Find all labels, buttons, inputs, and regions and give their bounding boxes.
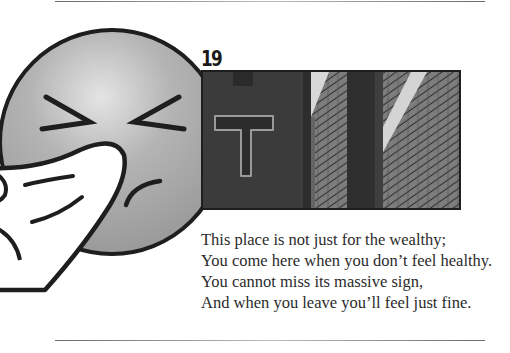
building-photo <box>201 70 461 210</box>
poem-line: You cannot miss its massive sign, <box>201 271 492 292</box>
poem-line: And when you leave you’ll feel just fine… <box>201 292 492 313</box>
top-divider <box>55 1 485 2</box>
poem: This place is not just for the wealthy; … <box>201 229 492 313</box>
bottom-divider <box>55 340 485 341</box>
poem-line: You come here when you don’t feel health… <box>201 250 492 271</box>
poem-line: This place is not just for the wealthy; <box>201 229 492 250</box>
puzzle-number: 19 <box>201 47 221 71</box>
